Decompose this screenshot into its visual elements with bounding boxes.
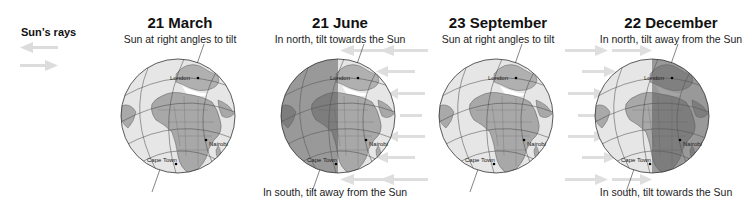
globe-23-september: London Nairobi Cape Town [439,44,553,192]
city-cape-town: Cape Town [147,157,177,163]
city-cape-town: Cape Town [465,157,495,163]
city-cape-town: Cape Town [307,157,337,163]
arrow-left-icon [20,42,58,53]
city-cape-town: Cape Town [621,157,651,163]
city-nairobi: Nairobi [369,141,388,147]
city-london: London [644,75,664,81]
panel-bottom-december: In south, tilt towards the Sun [566,186,747,198]
city-nairobi: Nairobi [209,141,228,147]
panel-bottom-june: In south, tilt away from the Sun [235,186,435,198]
arrow-right-icon [20,60,58,71]
globe-21-march: London Nairobi Cape Town [121,44,235,192]
panel-title-december: 22 December [571,14,747,31]
panel-subtitle-september: Sun at right angles to tilt [398,33,598,45]
panel-title-september: 23 September [398,14,598,31]
city-london: London [488,75,508,81]
city-nairobi: Nairobi [527,141,546,147]
city-london: London [330,75,350,81]
globe-21-june: London Nairobi Cape Town [280,44,395,192]
panel-subtitle-december: In north, tilt away from the Sun [571,33,747,45]
globe-22-december: London Nairobi Cape Town [595,44,712,192]
city-london: London [170,75,190,81]
city-nairobi: Nairobi [683,141,702,147]
